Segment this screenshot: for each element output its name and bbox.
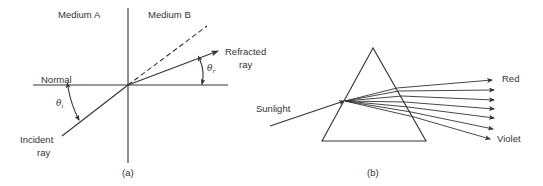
theta-r-arc bbox=[200, 60, 203, 84]
incident-ray bbox=[62, 85, 128, 136]
refracted-label-line1: Refracted bbox=[225, 47, 266, 57]
medium-b-label: Medium B bbox=[148, 10, 191, 20]
prism bbox=[322, 48, 426, 141]
incident-label-line1: Incident bbox=[20, 135, 53, 145]
red-label: Red bbox=[502, 74, 519, 84]
figure-b-drawing bbox=[270, 48, 494, 141]
figure-a-caption: (a) bbox=[122, 168, 134, 178]
undeviated-dashed-line bbox=[128, 26, 207, 85]
normal-label: Normal bbox=[41, 75, 72, 85]
theta-r-symbol: θr bbox=[207, 64, 215, 74]
medium-a-label: Medium A bbox=[58, 10, 100, 20]
refraction-figure: Medium A Medium B Normal Incident ray Re… bbox=[0, 0, 543, 186]
theta-i-arc bbox=[68, 87, 79, 120]
refracted-label-line2: ray bbox=[239, 60, 252, 70]
incident-label-line2: ray bbox=[37, 148, 50, 158]
figure-a-drawing bbox=[33, 8, 228, 163]
figure-b-caption: (b) bbox=[367, 168, 379, 178]
violet-label: Violet bbox=[497, 134, 521, 144]
sunlight-label: Sunlight bbox=[256, 104, 290, 114]
refracted-ray bbox=[128, 51, 218, 85]
diagram-drawing bbox=[0, 0, 543, 186]
theta-i-symbol: θi bbox=[56, 99, 63, 109]
